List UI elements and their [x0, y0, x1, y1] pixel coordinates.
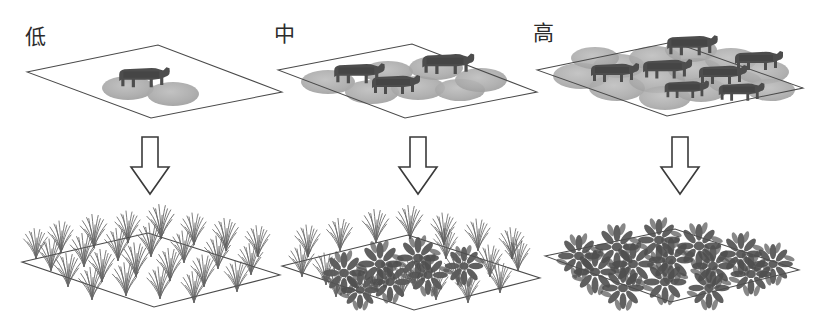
vegetation-plot-low [6, 200, 296, 315]
column-low: 低 [0, 0, 273, 318]
grazing-intensity-figure: 低 [0, 0, 818, 318]
grazing-plot-low [10, 36, 300, 116]
transition-arrow-medium [395, 135, 441, 201]
transition-arrow-low [127, 135, 173, 201]
grazing-plot-medium [260, 30, 550, 116]
transition-arrow-high [657, 135, 703, 201]
vegetation-rosettes-high [555, 216, 795, 311]
grazing-plot-high [515, 24, 815, 116]
column-high: 高 [515, 0, 815, 318]
vegetation-plot-high [527, 212, 817, 316]
plot-outline [27, 45, 282, 118]
column-medium: 中 [260, 0, 533, 318]
